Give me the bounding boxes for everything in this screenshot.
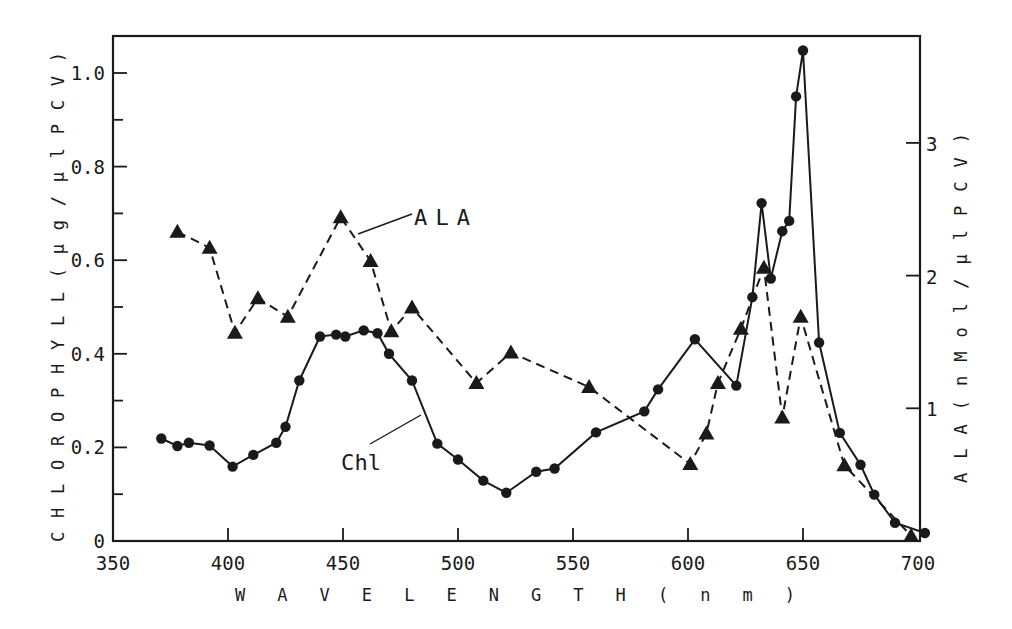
circle-marker <box>248 450 258 460</box>
y2-tick-label: 2 <box>926 266 937 288</box>
circle-marker <box>359 325 369 335</box>
x-tick-label: 700 <box>901 552 935 574</box>
circle-marker <box>331 329 341 339</box>
triangle-marker <box>169 224 185 238</box>
circle-marker <box>453 454 463 464</box>
axis-titles: W A V E L E N G T H ( n m )C H L O R O P… <box>48 52 971 605</box>
triangle-marker <box>710 375 726 389</box>
circle-marker <box>372 328 382 338</box>
y2-axis-title: A L A ( n M o l / µ l P C V ) <box>951 133 971 483</box>
series-ala <box>169 209 919 541</box>
ala-leader-line <box>358 214 412 234</box>
triangle-marker <box>202 240 218 254</box>
triangle-marker <box>227 325 243 339</box>
series-chl <box>156 45 930 538</box>
y-tick-label: 0.2 <box>71 436 105 458</box>
circle-marker <box>549 463 559 473</box>
y-tick-label: 0.6 <box>71 249 105 271</box>
circle-marker <box>184 438 194 448</box>
circle-marker <box>340 331 350 341</box>
y-tick-label: 0.4 <box>71 343 105 365</box>
circle-marker <box>156 433 166 443</box>
triangle-marker <box>404 299 420 313</box>
circle-marker <box>890 518 900 528</box>
triangle-marker <box>581 379 597 393</box>
circle-marker <box>384 349 394 359</box>
triangle-marker <box>503 345 519 359</box>
y-axis-title: C H L O R O P H Y L L ( µ g / µ l P C V … <box>48 52 68 542</box>
circle-marker <box>869 489 879 499</box>
y2-tick-label: 1 <box>926 398 937 420</box>
circle-marker <box>784 216 794 226</box>
circle-marker <box>407 375 417 385</box>
circle-marker <box>920 528 930 538</box>
circle-marker <box>791 91 801 101</box>
plot-area: 35040045050055060065070000.20.40.60.81.0… <box>0 0 1012 629</box>
triangle-marker <box>793 309 809 323</box>
circle-marker <box>271 438 281 448</box>
y-tick-label: 0 <box>94 530 105 552</box>
chart: 35040045050055060065070000.20.40.60.81.0… <box>0 0 1012 629</box>
x-axis-title: W A V E L E N G T H ( n m ) <box>235 585 795 605</box>
circle-marker <box>315 331 325 341</box>
circle-marker <box>653 384 663 394</box>
circle-marker <box>747 292 757 302</box>
circle-marker <box>835 428 845 438</box>
chl-label: Chl <box>341 450 381 475</box>
circle-marker <box>798 45 808 55</box>
circle-marker <box>478 475 488 485</box>
triangle-marker <box>836 457 852 471</box>
triangle-marker <box>774 410 790 424</box>
x-tick-label: 650 <box>786 552 820 574</box>
circle-marker <box>531 467 541 477</box>
circle-marker <box>690 334 700 344</box>
triangle-marker <box>333 209 349 223</box>
circle-marker <box>294 375 304 385</box>
triangle-marker <box>698 426 714 440</box>
circle-marker <box>227 461 237 471</box>
triangle-marker <box>363 253 379 267</box>
y2-tick-label: 3 <box>926 133 937 155</box>
circle-marker <box>855 460 865 470</box>
triangle-marker <box>383 323 399 337</box>
y-tick-label: 1.0 <box>71 62 105 84</box>
circle-marker <box>731 380 741 390</box>
x-tick-label: 600 <box>671 552 705 574</box>
x-tick-label: 550 <box>556 552 590 574</box>
x-tick-label: 450 <box>326 552 360 574</box>
chl-line <box>161 51 925 534</box>
x-tick-label: 350 <box>96 552 130 574</box>
triangle-marker <box>280 309 296 323</box>
circle-marker <box>639 406 649 416</box>
circle-marker <box>591 427 601 437</box>
circle-marker <box>432 438 442 448</box>
circle-marker <box>766 273 776 283</box>
x-tick-label: 500 <box>441 552 475 574</box>
circle-marker <box>172 441 182 451</box>
circle-marker <box>814 337 824 347</box>
circle-marker <box>280 422 290 432</box>
x-tick-label: 400 <box>211 552 245 574</box>
circle-marker <box>777 226 787 236</box>
circle-marker <box>204 440 214 450</box>
triangle-marker <box>682 456 698 470</box>
ala-line <box>177 217 911 535</box>
triangle-marker <box>250 290 266 304</box>
chl-leader-line <box>370 415 421 444</box>
circle-marker <box>756 198 766 208</box>
ala-label: ALA <box>414 205 470 230</box>
y-tick-label: 0.8 <box>71 156 105 178</box>
circle-marker <box>501 488 511 498</box>
